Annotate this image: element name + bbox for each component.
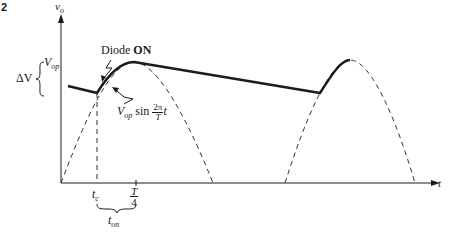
diode-on-prefix: Diode [101,43,133,57]
sine-t: t [163,104,166,118]
sine-fn: sin [132,104,152,118]
ton-label: ton [108,214,119,226]
diode-on-bold: ON [133,43,151,57]
sine-frac-den: T [152,113,163,122]
diode-on-label: Diode ON [101,44,151,56]
t-quarter-label: T4 [130,186,138,207]
tc-sub: c [95,194,99,203]
y-axis-label: vo [55,1,64,12]
delta-v-label: ΔV [16,72,32,84]
input-sine-dashed-2 [285,60,415,183]
delta-v-brace [36,62,44,96]
t-quarter-fraction: T4 [130,186,138,207]
figure-number: 2 [1,2,7,13]
sine-expression: Vop sin 2πTt [117,103,167,122]
input-sine-dashed-1 [61,62,213,183]
y-axis-arrow-icon [58,14,64,23]
x-axis-label: t [438,178,441,189]
sine-sub: op [124,111,132,120]
tc-label: tc [92,188,99,200]
delta-v-text: ΔV [16,71,32,85]
t-quarter-den: 4 [130,197,138,207]
output-waveform [68,60,350,93]
ton-sub: on [111,220,119,229]
rectifier-waveform-diagram [0,0,449,235]
vop-label: Vop [44,56,59,68]
vop-sub: op [51,62,59,71]
y-axis-label-sub: o [60,6,64,15]
sine-fraction: 2πT [152,103,163,122]
